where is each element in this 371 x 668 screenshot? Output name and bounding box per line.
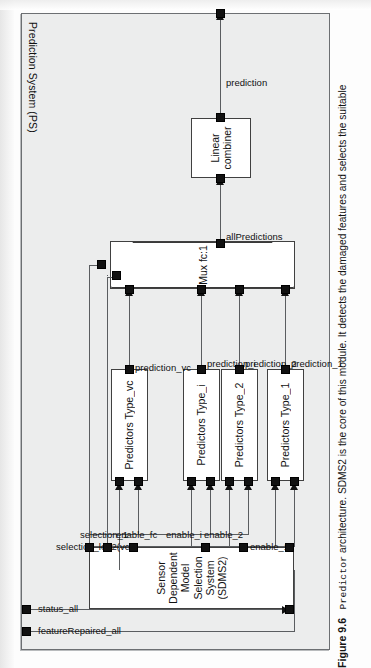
port-predictor-vc-in-b <box>115 477 124 486</box>
signal-label-prediction-i: prediction_i <box>207 358 256 369</box>
signal-label-prediction: prediction <box>226 77 267 88</box>
port-predictor-1-in-b <box>271 477 280 486</box>
block-predictors-type-1: Predictors Type_1 <box>267 369 304 481</box>
wire-predictor-1-in-b <box>275 485 276 546</box>
port-predictor-i-in-b <box>187 477 196 486</box>
wire-prediction-1 <box>285 289 286 369</box>
wire-selection-1 <box>107 277 108 545</box>
port-predictor-2-in-b <box>225 477 234 486</box>
port-prediction-out <box>216 9 225 18</box>
port-linear-combiner-in <box>216 174 225 183</box>
port-sdms2-in-status <box>285 605 294 614</box>
block-mux-label: Mux fc:1 <box>111 242 294 288</box>
port-mux-in-1 <box>281 285 290 294</box>
block-sdms2-label: Sensor Dependent Model Selection System … <box>90 548 293 608</box>
wire-all-predictions <box>220 178 221 243</box>
port-predictor-2-out <box>235 365 244 374</box>
wire-prediction-2 <box>239 289 240 369</box>
block-predictors-type-i: Predictors Type_i <box>183 369 220 481</box>
wire-feature-repaired-branch-1 <box>294 570 295 632</box>
port-sdms2-out-selection-1 <box>103 543 112 552</box>
wire-enable-2 <box>248 485 249 535</box>
port-sdms2-out-selection-log2 <box>85 543 94 552</box>
block-predictors-type-2-label: Predictors Type_2 <box>222 370 257 480</box>
page-scan: Prediction System (PS) prediction Linear… <box>0 0 371 668</box>
page-top-shadow <box>0 0 371 10</box>
port-linear-combiner-out <box>216 113 225 122</box>
signal-label-status-all: status_all <box>38 603 78 614</box>
figure-caption: Figure 9.6 Predictor architecture. SDMS2… <box>336 8 349 668</box>
wire-enable-1 <box>294 485 295 547</box>
figure-caption-mono: Predictor <box>338 556 349 610</box>
signal-label-all-predictions: allPredictions <box>226 231 283 242</box>
signal-label-enable-1: enable_1 <box>250 541 289 552</box>
port-predictor-vc-out <box>125 365 134 374</box>
block-mux: Mux fc:1 <box>110 241 295 289</box>
prediction-system-label: Prediction System (PS) <box>27 22 39 133</box>
port-predictor-i-in-a <box>206 477 215 486</box>
port-mux-in-3 <box>197 285 206 294</box>
port-predictor-vc-in-a <box>134 477 143 486</box>
page-gutter-shadow <box>0 0 14 668</box>
signal-label-prediction-vc: prediction_vc <box>135 362 191 373</box>
port-status-all-in <box>22 605 31 614</box>
port-sdms2-out-enable-fc <box>129 543 138 552</box>
port-mux-select-1 <box>112 271 121 280</box>
port-predictor-i-out <box>197 365 206 374</box>
block-predictors-type-vc-label: Predictors Type_vc <box>112 370 147 480</box>
block-predictors-type-vc: Predictors Type_vc <box>111 369 148 481</box>
block-linear-combiner-label: Linear combiner <box>192 119 250 177</box>
port-mux-in-4 <box>125 285 134 294</box>
port-predictor-1-out <box>281 365 290 374</box>
port-mux-in-2 <box>235 285 244 294</box>
port-sdms2-out-enable-i <box>201 543 210 552</box>
wire-enable-fc <box>138 485 139 535</box>
figure-number: Figure 9.6 <box>336 618 348 668</box>
wire-prediction <box>220 13 221 118</box>
signal-label-selection-log2: selection_log2(vc) <box>56 541 133 552</box>
signal-label-prediction-1: prediction_1 <box>291 358 343 369</box>
port-mux-select-2 <box>97 260 106 269</box>
port-mux-out <box>216 239 225 248</box>
wire-enable-i <box>210 485 211 535</box>
port-predictor-1-in-a <box>290 477 299 486</box>
wire-predictor-vc-in-b <box>119 485 120 570</box>
signal-label-enable-2: enable_2 <box>204 529 243 540</box>
wire-selection-log2 <box>89 265 90 545</box>
port-sdms2-out-enable-2 <box>239 543 248 552</box>
block-predictors-type-2: Predictors Type_2 <box>221 369 258 481</box>
figure-caption-text: architecture. SDMS2 is the core of this … <box>337 85 348 556</box>
port-sdms2-out-enable-1 <box>285 543 294 552</box>
wire-prediction-i <box>201 289 202 369</box>
port-predictor-2-in-a <box>244 477 253 486</box>
figure-canvas: Prediction System (PS) prediction Linear… <box>18 13 330 653</box>
signal-label-feature-repaired-all: featureRepaired_all <box>38 625 121 636</box>
wire-prediction-vc <box>129 289 130 369</box>
signal-label-selection-1: selection_1 <box>80 529 128 540</box>
block-linear-combiner: Linear combiner <box>191 118 251 178</box>
block-predictors-type-i-label: Predictors Type_i <box>184 370 219 480</box>
block-predictors-type-1-label: Predictors Type_1 <box>268 370 303 480</box>
port-feature-repaired-all-in <box>22 627 31 636</box>
signal-label-enable-i: enable_i <box>166 529 202 540</box>
